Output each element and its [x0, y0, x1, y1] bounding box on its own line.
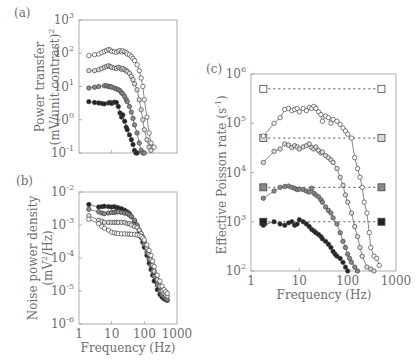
data-point: [121, 113, 125, 117]
ytick-label: 103: [54, 11, 74, 27]
data-point: [92, 53, 96, 57]
panel-c-xlabel: Frequency (Hz): [277, 288, 372, 302]
panel-b-ylabel-line1: Noise power density: [26, 195, 40, 320]
data-point: [360, 185, 364, 189]
data-point: [278, 222, 282, 226]
data-point: [355, 234, 359, 238]
data-point: [132, 123, 136, 127]
series-line: [263, 220, 347, 271]
panel-label-b: (b): [16, 174, 33, 188]
xtick-label: 1: [75, 327, 83, 341]
xtick-label: 10: [292, 274, 307, 288]
data-point: [272, 121, 276, 125]
data-point: [272, 189, 276, 193]
panel-b: 10-210-310-410-510-6 1101001000 Noise po…: [26, 183, 192, 355]
data-point: [369, 245, 373, 249]
data-point: [261, 223, 265, 227]
data-point: [345, 132, 349, 136]
panel-a-ylabel-line2-text: (mV/unit contrast): [48, 34, 62, 146]
ytick-exponent: -5: [66, 282, 74, 291]
data-point: [92, 85, 96, 89]
square-marker: [378, 218, 385, 225]
ytick-exponent: -1: [66, 144, 74, 153]
panel-b-ylabel-tail: /Hz): [41, 230, 55, 256]
data-point: [131, 78, 135, 82]
data-point: [278, 185, 282, 189]
data-point: [341, 260, 345, 264]
panel-c: 106105104103102 1101001000 Effective Poi…: [214, 65, 411, 302]
data-point: [142, 151, 146, 155]
data-point: [127, 133, 131, 137]
data-point: [87, 53, 91, 57]
ytick-label: 10-2: [51, 183, 74, 199]
data-point: [149, 141, 153, 145]
data-point: [139, 108, 143, 112]
series: [261, 142, 376, 273]
data-point: [329, 211, 333, 215]
ytick-exponent: 5: [241, 114, 246, 123]
data-point: [131, 142, 135, 146]
ytick-exponent: 4: [241, 164, 246, 173]
ytick-exponent: -3: [66, 216, 74, 225]
data-point: [145, 115, 149, 119]
data-point: [158, 279, 162, 283]
data-point: [377, 263, 381, 267]
data-point: [261, 196, 265, 200]
data-point: [335, 222, 339, 226]
data-point: [149, 253, 153, 257]
series-line: [89, 102, 137, 153]
data-point: [326, 115, 330, 119]
data-point: [127, 104, 131, 108]
data-point: [139, 76, 143, 80]
data-point: [96, 84, 100, 88]
panel-c-ylabel-text: Effective Poisson rate (s: [215, 108, 229, 255]
square-marker: [260, 184, 267, 191]
series-line: [89, 86, 144, 153]
data-point: [345, 252, 349, 256]
data-point: [125, 128, 129, 132]
xtick-label: 100: [133, 327, 156, 341]
data-point: [145, 138, 149, 142]
data-point: [132, 218, 136, 222]
ytick-label: 10-3: [51, 216, 74, 232]
data-point: [297, 110, 301, 114]
data-point: [349, 136, 353, 140]
data-point: [87, 217, 91, 221]
data-point: [132, 58, 136, 62]
series: [87, 84, 147, 156]
data-point: [116, 104, 120, 108]
data-point: [87, 68, 91, 72]
data-point: [320, 200, 324, 204]
data-point: [341, 239, 345, 243]
ytick-base: 10: [54, 13, 69, 27]
data-point: [353, 265, 357, 269]
data-point: [149, 148, 153, 152]
data-point: [319, 112, 323, 116]
data-point: [367, 230, 371, 234]
panel-a: 10310210110010-1 Power transfer (mV/unit…: [33, 11, 177, 160]
ytick-exponent: 3: [69, 11, 74, 20]
data-point: [261, 160, 265, 164]
data-point: [92, 68, 96, 72]
data-point: [278, 115, 282, 119]
data-point: [125, 99, 129, 103]
data-point: [132, 82, 136, 86]
panel-c-ylabel-tail: ): [215, 95, 229, 100]
data-point: [102, 204, 106, 208]
data-point: [358, 245, 362, 249]
ytick-exponent: -6: [66, 315, 74, 324]
data-point: [145, 243, 149, 247]
data-point: [135, 151, 139, 155]
data-point: [131, 116, 135, 120]
series: [87, 47, 157, 149]
data-point: [355, 166, 359, 170]
ytick-label: 106: [226, 65, 246, 81]
data-point: [129, 138, 133, 142]
data-point: [272, 220, 276, 224]
data-point: [137, 68, 141, 72]
data-point: [102, 212, 106, 216]
square-marker: [378, 135, 385, 142]
xtick-label: 10: [104, 327, 119, 341]
data-point: [87, 86, 91, 90]
square-marker: [378, 184, 385, 191]
